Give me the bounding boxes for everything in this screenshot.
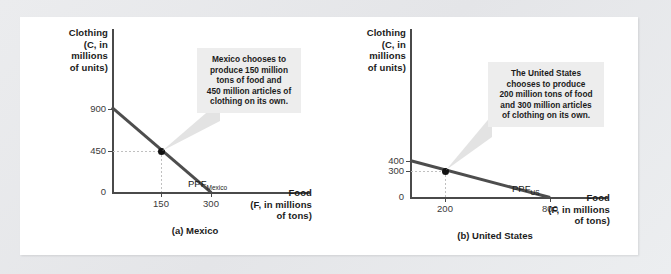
x-tickmark-300-mexico — [211, 193, 212, 197]
y-axis-title-line3: millions — [40, 50, 108, 62]
y-axis-title-line4: of units) — [40, 62, 108, 74]
x-axis-title-mexico: Food (F, in millions of tons) — [238, 187, 312, 222]
caption-united-states: (b) United States — [430, 230, 560, 241]
callout-us-line1: The United States — [495, 68, 597, 79]
y-axis-us — [410, 29, 412, 198]
y-axis-title-line2: (C, in — [40, 39, 108, 51]
figure-frame: Clothing (C, in millions of units) 900 4… — [0, 0, 671, 274]
x-axis-title-line2: (F, in millions — [238, 199, 312, 211]
y-axis-title-us-line1: Clothing — [338, 27, 406, 39]
x-tick-300-mexico: 300 — [194, 198, 228, 209]
y-tick-300-us: 300 — [370, 165, 404, 176]
y-axis-title-mexico: Clothing (C, in millions of units) — [40, 27, 108, 73]
y-axis-title-line1: Clothing — [40, 27, 108, 39]
callout-mexico-line3: tons of food and — [204, 75, 294, 86]
x-axis-title-us-line1: Food — [536, 192, 610, 204]
y-tick-900-mexico: 900 — [72, 103, 106, 114]
y-tickmark-300-us — [406, 171, 410, 172]
ppf-label-text-mexico: PPF — [188, 178, 206, 189]
y-axis-title-us-line2: (C, in — [338, 39, 406, 51]
y-axis-title-us-line3: millions — [338, 50, 406, 62]
callout-us-line5: of clothing on its own. — [495, 110, 597, 121]
figure-panel: Clothing (C, in millions of units) 900 4… — [20, 17, 638, 255]
callout-mexico-line1: Mexico chooses to — [204, 54, 294, 65]
x-tickmark-150-mexico — [161, 193, 162, 197]
x-tick-200-us: 200 — [428, 203, 462, 214]
y-tick-0-mexico: 0 — [72, 186, 106, 197]
callout-us: The United States chooses to produce 200… — [488, 62, 604, 127]
callout-mexico-line2: produce 150 million — [204, 65, 294, 76]
y-tick-450-mexico: 450 — [72, 145, 106, 156]
callout-us-line3: 200 million tons of food — [495, 89, 597, 100]
callout-mexico: Mexico chooses to produce 150 million to… — [197, 48, 301, 113]
callout-us-line2: chooses to produce — [495, 79, 597, 90]
callout-us-line4: and 300 million articles — [495, 100, 597, 111]
x-axis-title-us-line2: (F, in millions — [536, 204, 610, 216]
y-tickmark-450-mexico — [108, 151, 112, 152]
x-tickmark-200-us — [445, 198, 446, 202]
x-axis-title-line3: of tons) — [238, 210, 312, 222]
chart-panel-mexico: Clothing (C, in millions of units) 900 4… — [20, 17, 338, 255]
x-axis-title-us: Food (F, in millions of tons) — [536, 192, 610, 227]
callout-mexico-line4: 450 million articles of — [204, 86, 294, 97]
guide-horizontal-us — [411, 171, 445, 172]
y-axis-title-us: Clothing (C, in millions of units) — [338, 27, 406, 73]
ppf-label-mexico: PPFMexico — [188, 178, 227, 191]
guide-horizontal-mexico — [113, 151, 161, 152]
y-axis-title-us-line4: of units) — [338, 62, 406, 74]
caption-mexico: (a) Mexico — [140, 225, 250, 236]
y-tick-0-us: 0 — [370, 191, 404, 202]
x-axis-title-us-line3: of tons) — [536, 215, 610, 227]
ppf-label-subscript-mexico: Mexico — [206, 184, 227, 191]
callout-mexico-line5: clothing on its own. — [204, 96, 294, 107]
chart-panel-united-states: Clothing (C, in millions of units) 400 3… — [320, 17, 638, 255]
x-axis-title-line1: Food — [238, 187, 312, 199]
x-tick-150-mexico: 150 — [144, 198, 178, 209]
